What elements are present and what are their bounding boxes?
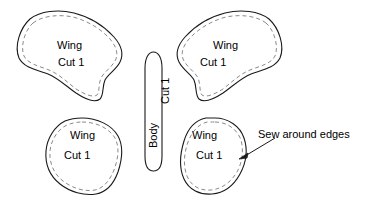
wing-top-left-label-line1: Wing (57, 40, 82, 51)
wing-top-right-label-line2: Cut 1 (200, 57, 226, 68)
pattern-outlines-svg (0, 0, 371, 223)
wing-bottom-right-label-line1: Wing (192, 130, 217, 141)
piece-body-center (145, 52, 162, 171)
wing-top-right-cut-outline (177, 11, 282, 101)
wing-bottom-right-label-line2: Cut 1 (196, 150, 222, 161)
body-label-line1: Body (148, 123, 159, 148)
body-label-line2: Cut 1 (160, 78, 171, 104)
wing-top-left-label-line2: Cut 1 (58, 57, 84, 68)
piece-wing-top-right (177, 11, 282, 101)
leader-line (245, 138, 275, 156)
body-cut-outline (145, 52, 162, 171)
wing-bottom-left-label-line2: Cut 1 (64, 150, 90, 161)
sew-around-edges-annotation: Sew around edges (258, 129, 350, 140)
wing-top-right-label-line1: Wing (213, 40, 238, 51)
wing-bottom-left-label-line1: Wing (70, 130, 95, 141)
pattern-diagram: Wing Cut 1 Wing Cut 1 Body Cut 1 Wing Cu… (0, 0, 371, 223)
